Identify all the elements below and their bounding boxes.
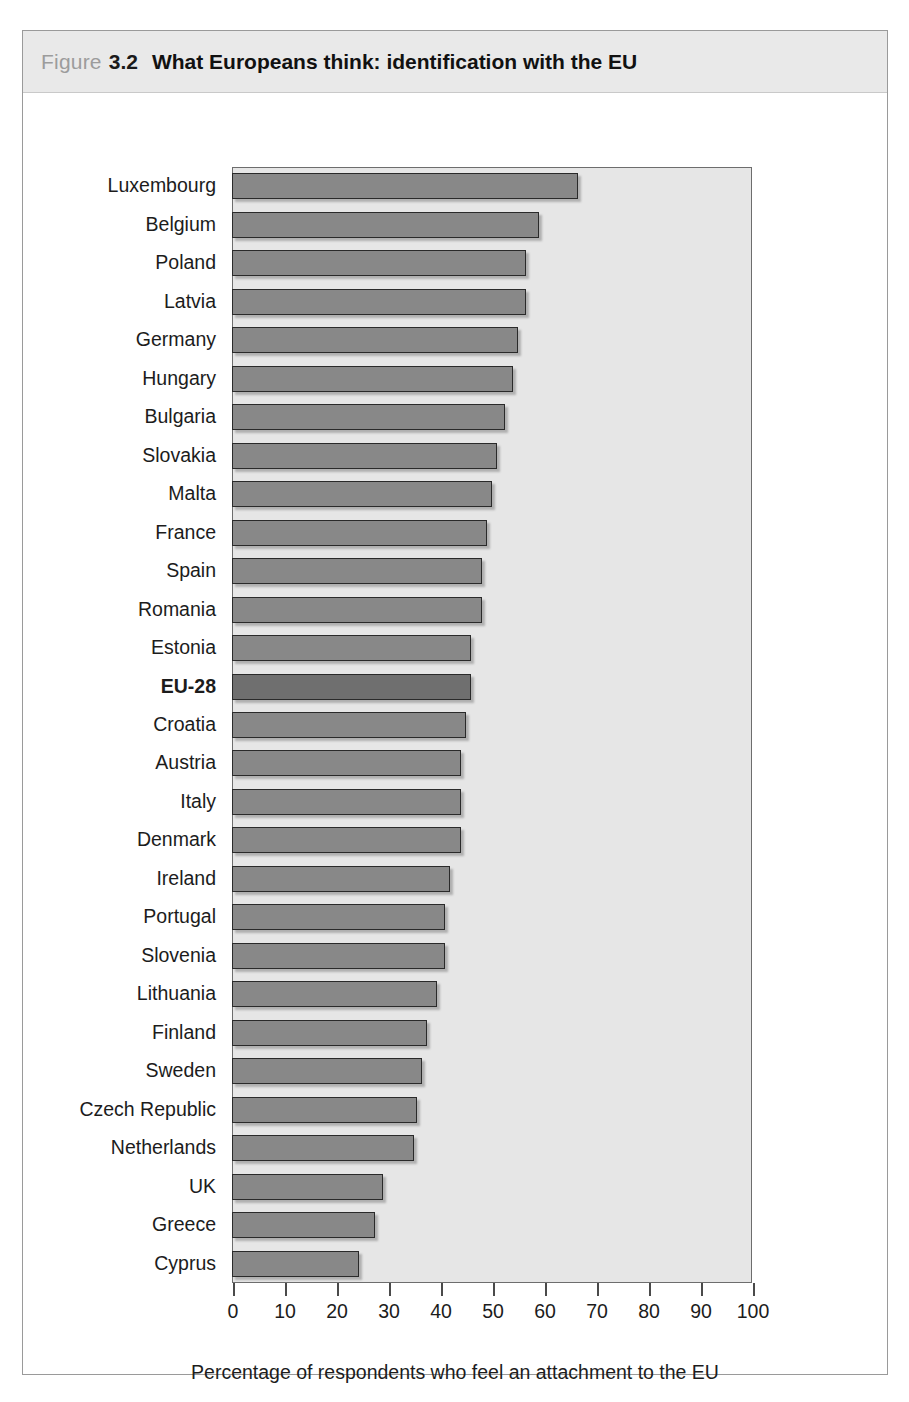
x-tick-label: 70	[586, 1300, 608, 1323]
x-tick-label: 40	[430, 1300, 452, 1323]
bar-croatia	[232, 712, 466, 738]
x-tick-mark	[701, 1283, 703, 1296]
bar-eu-28	[232, 674, 471, 700]
bar-row	[232, 674, 752, 700]
x-tick-label: 100	[737, 1300, 770, 1323]
bar-slovenia	[232, 943, 445, 969]
category-label-eu-28: EU-28	[161, 677, 216, 697]
bar-row	[232, 289, 752, 315]
category-label-spain: Spain	[166, 561, 216, 581]
bar-row	[232, 904, 752, 930]
chart-area: LuxembourgBelgiumPolandLatviaGermanyHung…	[23, 93, 887, 1375]
bar-bulgaria	[232, 404, 505, 430]
category-label-estonia: Estonia	[151, 638, 216, 658]
bar-spain	[232, 558, 482, 584]
category-label-slovakia: Slovakia	[142, 446, 216, 466]
x-tick-mark	[233, 1283, 235, 1296]
x-tick-mark	[545, 1283, 547, 1296]
bar-row	[232, 789, 752, 815]
x-tick-mark	[389, 1283, 391, 1296]
figure-number: 3.2	[109, 50, 138, 74]
x-tick-mark	[441, 1283, 443, 1296]
bar-france	[232, 520, 487, 546]
bar-ireland	[232, 866, 450, 892]
category-label-poland: Poland	[155, 253, 216, 273]
category-label-croatia: Croatia	[153, 715, 216, 735]
figure-title: What Europeans think: identification wit…	[152, 50, 637, 74]
category-label-ireland: Ireland	[156, 869, 216, 889]
category-label-denmark: Denmark	[137, 830, 216, 850]
bar-greece	[232, 1212, 375, 1238]
bar-poland	[232, 250, 526, 276]
bar-row	[232, 866, 752, 892]
category-label-hungary: Hungary	[142, 369, 216, 389]
value-axis: 0102030405060708090100	[232, 1283, 754, 1353]
bar-row	[232, 173, 752, 199]
category-label-malta: Malta	[168, 484, 216, 504]
x-tick-mark	[597, 1283, 599, 1296]
x-tick-mark	[285, 1283, 287, 1296]
bar-uk	[232, 1174, 383, 1200]
x-tick-label: 90	[690, 1300, 712, 1323]
bar-cyprus	[232, 1251, 359, 1277]
bar-row	[232, 981, 752, 1007]
bar-row	[232, 520, 752, 546]
category-label-netherlands: Netherlands	[111, 1138, 216, 1158]
bar-row	[232, 1058, 752, 1084]
category-label-czech-republic: Czech Republic	[79, 1100, 216, 1120]
category-label-bulgaria: Bulgaria	[144, 407, 216, 427]
category-label-latvia: Latvia	[164, 292, 216, 312]
category-label-luxembourg: Luxembourg	[108, 176, 216, 196]
bar-row	[232, 1135, 752, 1161]
bar-malta	[232, 481, 492, 507]
bar-row	[232, 1174, 752, 1200]
bar-austria	[232, 750, 461, 776]
bar-row	[232, 943, 752, 969]
bar-luxembourg	[232, 173, 578, 199]
bar-slovakia	[232, 443, 497, 469]
bar-row	[232, 366, 752, 392]
category-label-france: France	[155, 523, 216, 543]
x-tick-label: 0	[228, 1300, 239, 1323]
bar-row	[232, 250, 752, 276]
x-tick-label: 10	[274, 1300, 296, 1323]
bar-italy	[232, 789, 461, 815]
x-tick-label: 50	[482, 1300, 504, 1323]
category-axis-labels: LuxembourgBelgiumPolandLatviaGermanyHung…	[23, 167, 226, 1283]
figure-caption-band: Figure 3.2 What Europeans think: identif…	[23, 31, 887, 93]
bar-row	[232, 1212, 752, 1238]
axis-title: Percentage of respondents who feel an at…	[23, 1361, 887, 1384]
category-label-austria: Austria	[155, 753, 216, 773]
category-label-italy: Italy	[180, 792, 216, 812]
bar-czech-republic	[232, 1097, 417, 1123]
category-label-belgium: Belgium	[146, 215, 216, 235]
category-label-finland: Finland	[152, 1023, 216, 1043]
category-label-cyprus: Cyprus	[154, 1254, 216, 1274]
bar-latvia	[232, 289, 526, 315]
bar-hungary	[232, 366, 513, 392]
bar-row	[232, 1251, 752, 1277]
bar-row	[232, 558, 752, 584]
category-label-portugal: Portugal	[143, 907, 216, 927]
category-label-uk: UK	[189, 1177, 216, 1197]
category-label-romania: Romania	[138, 600, 216, 620]
bar-row	[232, 327, 752, 353]
bar-row	[232, 1020, 752, 1046]
bar-romania	[232, 597, 482, 623]
category-label-sweden: Sweden	[146, 1061, 216, 1081]
bar-portugal	[232, 904, 445, 930]
bar-row	[232, 443, 752, 469]
figure-label: Figure	[41, 50, 102, 74]
x-tick-label: 60	[534, 1300, 556, 1323]
bar-finland	[232, 1020, 427, 1046]
bar-row	[232, 635, 752, 661]
figure-frame: Figure 3.2 What Europeans think: identif…	[22, 30, 888, 1375]
category-label-lithuania: Lithuania	[137, 984, 216, 1004]
bar-row	[232, 481, 752, 507]
category-label-slovenia: Slovenia	[141, 946, 216, 966]
bar-row	[232, 712, 752, 738]
bar-netherlands	[232, 1135, 414, 1161]
bar-row	[232, 404, 752, 430]
bar-estonia	[232, 635, 471, 661]
category-label-germany: Germany	[136, 330, 216, 350]
